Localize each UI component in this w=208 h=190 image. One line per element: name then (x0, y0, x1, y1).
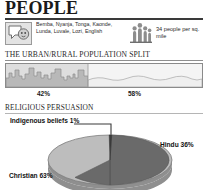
religion-pie-chart: Indigenous beliefs 1% Hindu 36% Christia… (0, 114, 208, 190)
urban-percentage-label: 42% (37, 90, 50, 97)
urban-rural-heading: THE URBAN/RURAL POPULATION SPLIT (5, 50, 150, 59)
rural-percentage-label: 58% (128, 90, 141, 97)
population-density-text: 34 people per sq. mile (156, 26, 208, 40)
split-percentage-labels: 42% 58% (5, 90, 203, 100)
pie-label-hindu: Hindu 36% (160, 141, 194, 148)
urban-rural-split-bar (5, 63, 203, 88)
speech-bubble-face-icon (5, 22, 32, 45)
pie-label-indigenous: Indigenous beliefs 1% (10, 117, 79, 124)
population-density-icon (130, 23, 152, 43)
pie-label-christian: Christian 63% (9, 172, 53, 179)
key-facts-row: Bemba, Nyanja, Tonga, Kaonde, Lunda, Luv… (0, 21, 208, 48)
urban-rural-divider (5, 60, 203, 61)
languages-text: Bemba, Nyanja, Tonga, Kaonde, Lunda, Luv… (36, 21, 124, 34)
header-divider (5, 18, 203, 20)
page-title: PEOPLE (5, 0, 78, 17)
religion-heading: RELIGIOUS PERSUASION (5, 103, 93, 112)
people-infographic-panel: PEOPLE Bemba, Nyanja, Tonga, Kaonde, Lun… (0, 0, 208, 190)
